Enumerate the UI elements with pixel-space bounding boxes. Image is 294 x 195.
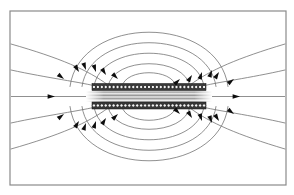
coil-upper-band-turn	[187, 85, 190, 88]
coil-lower-band-turn	[159, 104, 162, 107]
coil-lower-band-turn	[104, 104, 107, 107]
field-arrow-lower-right-f	[227, 108, 236, 116]
coil-upper-band-turn	[179, 85, 182, 88]
coil-upper-band-turn	[191, 85, 194, 88]
coil-upper-band-turn	[112, 85, 115, 88]
coil-lower-band-turn	[112, 104, 115, 107]
coil-upper-band-turn	[136, 85, 139, 88]
coil-lower-band-turn	[179, 104, 182, 107]
coil-upper-band-turn	[183, 85, 186, 88]
coil-lower-band-turn	[96, 104, 99, 107]
arc-lower-1	[70, 107, 228, 161]
coil-upper-band-turn	[96, 85, 99, 88]
coil-lower-band-turn	[198, 104, 201, 107]
coil-upper-band-turn	[155, 85, 158, 88]
field-arrow-axis-arrow-right	[233, 94, 240, 99]
coil-lower-band-turn	[143, 104, 146, 107]
coil-lower-band-turn	[195, 104, 198, 107]
coil-upper-band-turn	[124, 85, 127, 88]
coil-lower-band-turn	[128, 104, 131, 107]
coil-lower-band-turn	[139, 104, 142, 107]
coil-upper-band-turn	[175, 85, 178, 88]
coil-lower-band-turn	[202, 104, 205, 107]
coil-upper-band-turn	[100, 85, 103, 88]
coil-lower-band-turn	[124, 104, 127, 107]
coil-lower-band-turn	[191, 104, 194, 107]
coil-upper-band-turn	[151, 85, 154, 88]
coil-lower-band-turn	[136, 104, 139, 107]
coil-upper-band-turn	[120, 85, 123, 88]
coil-lower-band-turn	[116, 104, 119, 107]
coil-lower-band-turn	[151, 104, 154, 107]
coil-upper-band-turn	[171, 85, 174, 88]
coil-lower-band-turn	[100, 104, 103, 107]
field-arrow-lower-left-e	[100, 117, 108, 126]
coil-lower-band-turn	[171, 104, 174, 107]
coil-core-edge-fade	[86, 91, 212, 103]
coil-upper-band-turn	[92, 85, 95, 88]
coil-upper-band-turn	[195, 85, 198, 88]
field-arrow-upper-left-e	[100, 68, 108, 77]
coil-lower-band-turn	[120, 104, 123, 107]
arc-upper-1	[70, 32, 228, 86]
field-arrow-lower-left-d	[92, 120, 99, 128]
coil-upper-band-turn	[143, 85, 146, 88]
coil-upper-band-turn	[128, 85, 131, 88]
coil-upper-band-turn	[163, 85, 166, 88]
field-diagram-canvas	[0, 0, 294, 195]
arc-lower-2	[82, 107, 216, 151]
coil-lower-band-turn	[92, 104, 95, 107]
coil-lower-band-turn	[147, 104, 150, 107]
field-arrow-upper-right-b	[186, 74, 194, 83]
coil-upper-band-turn	[104, 85, 107, 88]
coil-lower-band-turn	[155, 104, 158, 107]
field-arrow-upper-left-d	[92, 64, 99, 72]
arc-lower-3	[94, 107, 204, 140]
outer-line-1-lower-right	[190, 108, 285, 149]
coil-lower-band-turn	[175, 104, 178, 107]
coil-upper-band-turn	[167, 85, 170, 88]
coil-upper-band-turn	[198, 85, 201, 88]
coil-upper-band-turn	[132, 85, 135, 88]
coil-lower-band-turn	[183, 104, 186, 107]
coil-lower-band-turn	[187, 104, 190, 107]
coil-lower-band-turn	[108, 104, 111, 107]
arc-upper-2	[82, 43, 216, 87]
coil-lower-band-turn	[132, 104, 135, 107]
coil-upper-band-turn	[202, 85, 205, 88]
coil-lower-band-turn	[163, 104, 166, 107]
coil-upper-band-turn	[116, 85, 119, 88]
coil-group	[86, 84, 212, 110]
field-arrow-axis-arrow-left	[48, 94, 55, 99]
arc-upper-3	[94, 53, 204, 86]
field-diagram-figure	[0, 0, 294, 195]
coil-upper-band-turn	[139, 85, 142, 88]
coil-lower-band-turn	[167, 104, 170, 107]
coil-upper-band-turn	[108, 85, 111, 88]
field-arrow-upper-right-f	[227, 77, 236, 85]
outer-line-1-upper-right	[190, 44, 285, 85]
field-arrow-lower-right-b	[186, 111, 194, 120]
coil-upper-band-turn	[147, 85, 150, 88]
coil-upper-band-turn	[159, 85, 162, 88]
